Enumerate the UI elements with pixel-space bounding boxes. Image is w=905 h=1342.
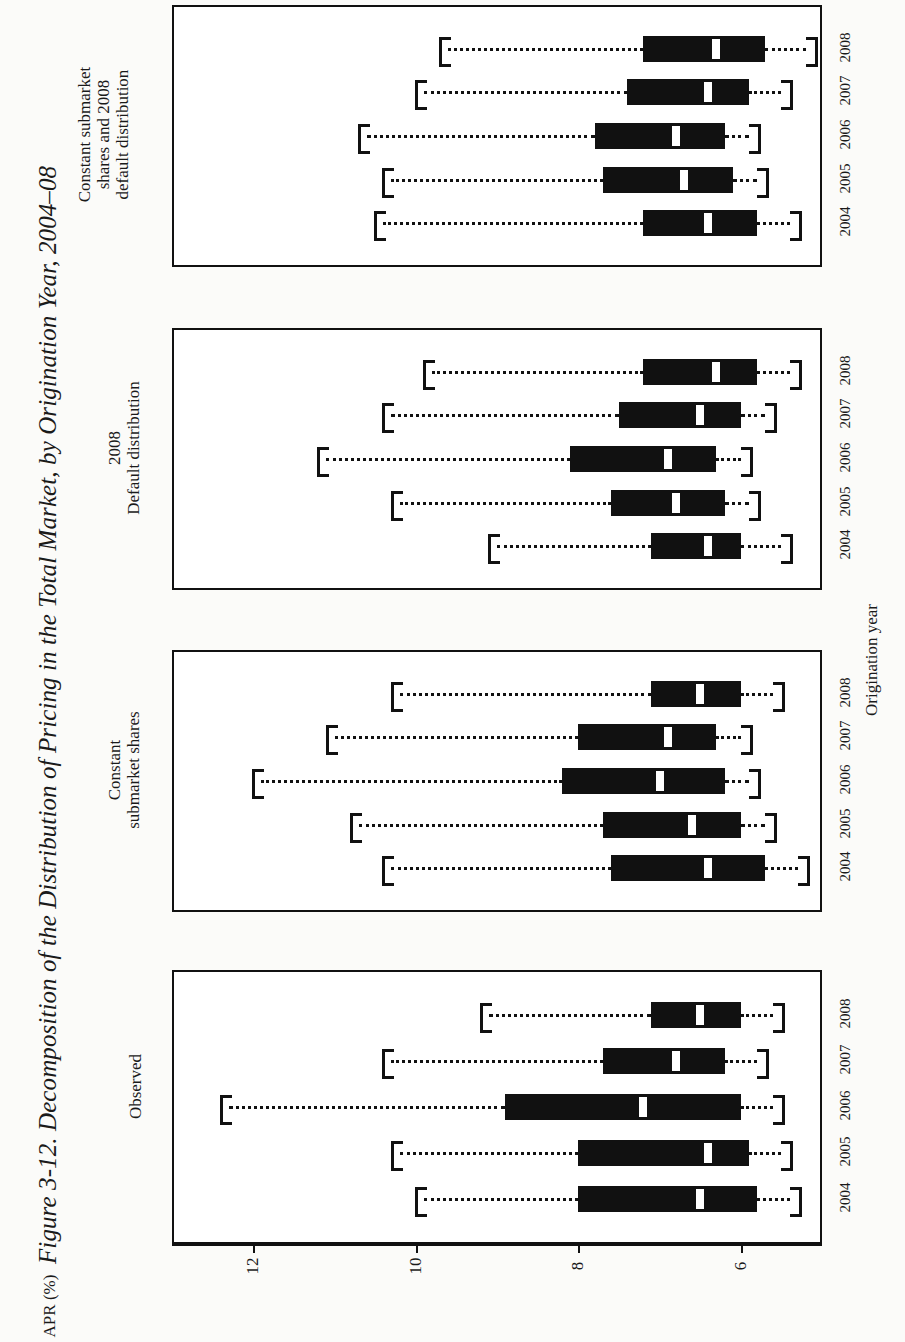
whisker-upper [400, 1152, 579, 1155]
whisker-upper [383, 222, 643, 225]
whisker-upper [391, 414, 619, 417]
panel-caption-constant-submarket-shares: Constant submarket shares [105, 639, 143, 901]
year-tick-labels: 20042005200620072008 [828, 328, 862, 590]
box-row [172, 206, 822, 240]
whisker-cap-upper [374, 211, 386, 241]
whisker-lower [749, 91, 782, 94]
whisker-cap-lower [749, 769, 761, 799]
year-label-2008: 2008 [837, 0, 854, 110]
whisker-cap-upper [317, 447, 329, 477]
iqr-box [643, 36, 765, 62]
iqr-box [643, 210, 757, 236]
median-marker [712, 39, 720, 59]
whisker-cap-upper [358, 124, 370, 154]
axis-tick-label-12: 12 [243, 1251, 263, 1281]
whisker-cap-upper [423, 360, 435, 390]
whisker-cap-upper [382, 168, 394, 198]
panel-constant-submarket-shares: Constant submarket shares200420052006200… [172, 650, 822, 912]
iqr-box [505, 1094, 741, 1120]
year-label-2008: 2008 [837, 307, 854, 433]
whisker-cap-upper [415, 80, 427, 110]
whisker-upper [335, 736, 579, 739]
whisker-cap-upper [252, 769, 264, 799]
box-row [172, 442, 822, 476]
iqr-box [603, 812, 741, 838]
box-row [172, 998, 822, 1032]
figure-title: Figure 3-12. Decomposition of the Distri… [34, 0, 62, 1264]
whisker-cap-upper [480, 1003, 492, 1033]
box-row [172, 1090, 822, 1124]
whisker-lower [725, 780, 749, 783]
whisker-cap-lower [790, 211, 802, 241]
whisker-cap-upper [391, 682, 403, 712]
whisker-cap-upper [350, 813, 362, 843]
whisker-cap-lower [790, 360, 802, 390]
panel-caption-observed: Observed [126, 950, 145, 1224]
panel-constant-shares-and-2008-default: Constant submarket shares and 2008 defau… [172, 5, 822, 267]
box-row [172, 163, 822, 197]
panel-caption-constant-shares-and-2008-default: Constant submarket shares and 2008 defau… [75, 4, 132, 266]
axis-tick-label-8: 8 [568, 1251, 588, 1281]
axis-line [172, 1244, 822, 1246]
whisker-lower [725, 502, 749, 505]
whisker-lower [725, 135, 749, 138]
iqr-box [643, 359, 757, 385]
whisker-upper [424, 1198, 578, 1201]
whisker-cap-lower [765, 403, 777, 433]
whisker-cap-upper [488, 534, 500, 564]
whisker-cap-upper [326, 725, 338, 755]
box-row [172, 720, 822, 754]
iqr-box [595, 123, 725, 149]
iqr-box [651, 533, 740, 559]
median-marker [704, 1143, 712, 1163]
median-marker [704, 536, 712, 556]
box-row [172, 32, 822, 66]
whisker-lower [741, 824, 765, 827]
whisker-lower [733, 179, 757, 182]
axis-tick-label-10: 10 [406, 1251, 426, 1281]
whisker-lower [716, 458, 740, 461]
whisker-cap-upper [382, 403, 394, 433]
whisker-cap-lower [741, 725, 753, 755]
median-marker [672, 1051, 680, 1071]
whisker-cap-lower [781, 80, 793, 110]
whisker-cap-lower [781, 1141, 793, 1171]
box-row [172, 355, 822, 389]
box-row [172, 398, 822, 432]
whisker-cap-lower [773, 682, 785, 712]
whisker-lower [741, 414, 765, 417]
median-marker [672, 493, 680, 513]
box-row [172, 851, 822, 885]
median-marker [704, 858, 712, 878]
y-axis-title: APR (%) [40, 1196, 60, 1342]
whisker-upper [400, 502, 611, 505]
panel-observed: Observed20042005200620072008 [172, 970, 822, 1244]
year-tick-labels: 20042005200620072008 [828, 970, 862, 1244]
whisker-cap-upper [220, 1095, 232, 1125]
iqr-box [578, 1140, 749, 1166]
whisker-upper [489, 1014, 652, 1017]
median-marker [696, 684, 704, 704]
median-marker [664, 727, 672, 747]
whisker-lower [741, 1106, 774, 1109]
whisker-cap-upper [439, 37, 451, 67]
median-marker [712, 362, 720, 382]
box-row [172, 677, 822, 711]
whisker-cap-lower [749, 491, 761, 521]
whisker-lower [765, 48, 806, 51]
whisker-lower [765, 867, 798, 870]
whisker-cap-lower [781, 534, 793, 564]
whisker-cap-lower [757, 168, 769, 198]
box-row [172, 75, 822, 109]
box-row [172, 808, 822, 842]
whisker-lower [757, 222, 790, 225]
apr-value-axis: 121086 [172, 1244, 822, 1296]
year-tick-labels: 20042005200620072008 [828, 650, 862, 912]
whisker-upper [261, 780, 562, 783]
whisker-upper [391, 179, 602, 182]
whisker-upper [497, 545, 651, 548]
median-marker [704, 213, 712, 233]
box-row [172, 1182, 822, 1216]
iqr-box [627, 79, 749, 105]
